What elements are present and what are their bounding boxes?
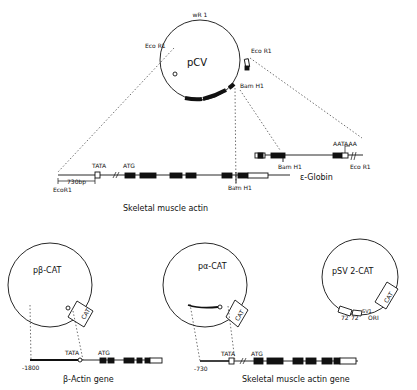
globin-aataaa: AATAAA <box>333 140 358 147</box>
pbeta-atg: ATG <box>98 349 110 356</box>
pbeta-caption: β-Actin gene <box>63 375 114 384</box>
psv2-ori: ORI <box>368 314 379 321</box>
psv2-72b: 72 <box>351 314 359 321</box>
palpha-caption: Skeletal muscle actin gene <box>242 375 350 384</box>
skeletal-tata: TATA <box>91 162 107 169</box>
globin-eco: Eco R1 <box>350 163 371 170</box>
skeletal-eco: EcoR1 <box>53 186 72 193</box>
palpha-position: -730 <box>194 365 208 372</box>
pbeta-position: -1800 <box>22 364 40 371</box>
palpha-tata: TATA <box>220 350 236 357</box>
globin-bam: Bam H1 <box>278 163 302 170</box>
pcv-eco-left: Eco R1 <box>145 42 166 49</box>
palpha-atg: ATG <box>251 350 263 357</box>
psv2-72a: 72 <box>341 314 349 321</box>
pcv-origin-label: wR 1 <box>193 11 208 18</box>
pcv-bam: Bam H1 <box>240 82 264 89</box>
skeletal-atg: ATG <box>123 162 135 169</box>
skeletal-caption: Skeletal muscle actin <box>123 204 208 213</box>
pbeta-cat-name: pβ-CAT <box>33 266 62 275</box>
pcv-name: pCV <box>187 57 207 68</box>
pcv-eco-right: Eco R1 <box>251 47 272 54</box>
skeletal-bam: Bam H1 <box>228 184 252 191</box>
diagram-canvas: wR 1 pCV Eco R1 Eco R1 Bam H1 TATA ATG 7… <box>0 0 417 390</box>
palpha-cat-name: pα-CAT <box>198 262 227 271</box>
skeletal-distance: 730bp <box>67 178 86 186</box>
pbeta-tata: TATA <box>64 349 80 356</box>
psv2-cat-name: pSV 2-CAT <box>332 267 374 276</box>
globin-caption: ε-Globin <box>300 173 333 182</box>
